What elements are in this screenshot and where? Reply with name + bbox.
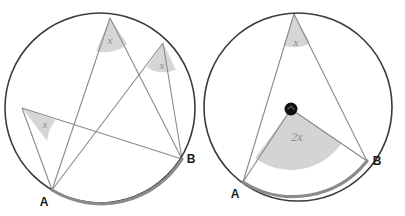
right-circle-panel: x 2x A B: [204, 13, 392, 201]
point-label-a-left: A: [40, 195, 49, 209]
angle-label-x-apex-right-circle: x: [293, 36, 299, 48]
geometry-figure: x x x A B x 2x: [0, 0, 405, 216]
circle-outline-left: [5, 13, 195, 203]
angle-label-2x-center-right-circle: 2x: [291, 130, 303, 144]
chord-v1-b: [110, 18, 182, 159]
center-dot-icon: [285, 103, 298, 116]
chord-v2-a: [52, 43, 163, 190]
chord-v1-a: [52, 18, 110, 190]
left-circle-panel: x x x A B: [5, 13, 196, 209]
point-label-b-right: B: [373, 154, 382, 168]
point-label-a-right: A: [231, 187, 240, 201]
highlighted-arc-ab-left: [52, 159, 182, 204]
diagram-canvas: x x x A B x 2x: [0, 0, 405, 216]
point-label-b-left: B: [187, 152, 196, 166]
angle-label-x-left-left-circle: x: [42, 118, 48, 130]
angle-label-x-top-left-circle: x: [107, 34, 113, 46]
angle-label-x-upper-right-left-circle: x: [159, 59, 165, 71]
